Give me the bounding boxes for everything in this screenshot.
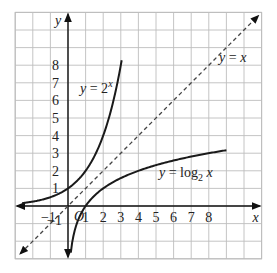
x-tick-label: 6	[170, 210, 177, 225]
x-tick-label: 4	[135, 210, 142, 225]
x-tick-label: 5	[153, 210, 160, 225]
y-tick-label: 2	[52, 164, 59, 179]
x-tick-label: 3	[117, 210, 124, 225]
origin-label: O	[74, 209, 84, 224]
label-identity: y = x	[217, 50, 247, 65]
x-tick-label: 7	[188, 210, 195, 225]
y-tick-label: 7	[52, 76, 59, 91]
y-tick-label: −1	[47, 213, 62, 228]
x-axis-label: x	[251, 210, 259, 225]
y-tick-label: 1	[52, 181, 59, 196]
y-tick-label: 6	[52, 93, 59, 108]
label-exp2: y = 2x	[78, 78, 113, 96]
function-graph: −112345678−112345678Oxyy = 2xy = xy = lo…	[0, 0, 277, 273]
x-tick-label: 8	[205, 210, 212, 225]
y-tick-label: 3	[52, 146, 59, 161]
y-tick-label: 5	[52, 111, 59, 126]
y-tick-label: 4	[52, 129, 59, 144]
y-tick-label: 8	[52, 58, 59, 73]
y-axis-label: y	[53, 13, 62, 28]
x-tick-label: 2	[100, 210, 107, 225]
